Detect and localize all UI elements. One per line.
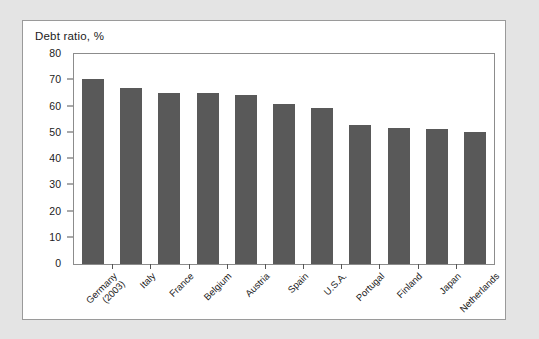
x-tick-label: Netherlands [458,271,502,315]
y-tick-label: 0 [55,257,61,269]
bar-slot [74,54,112,264]
bar-slot [379,54,417,264]
y-tick-label: 10 [49,231,61,243]
bar [426,129,448,264]
bar [464,132,486,264]
y-tick-label: 40 [49,152,61,164]
y-tick-label: 70 [49,73,61,85]
bar [273,104,295,264]
plot-wrapper: 01020304050607080 Germany(2003)ItalyFran… [23,21,507,321]
bar [158,93,180,264]
bar [235,95,257,264]
bar [388,128,410,265]
bar [82,79,104,264]
bar-slot [112,54,150,264]
x-tick-label: Italy [138,271,158,291]
bar-slot [418,54,456,264]
bar-slot [456,54,494,264]
bar [349,125,371,264]
y-tick-label: 20 [49,205,61,217]
y-tick-label: 50 [49,126,61,138]
y-axis: 01020304050607080 [23,53,73,263]
bar [120,88,142,264]
figure-card: Debt ratio, % 01020304050607080 Germany(… [22,20,506,320]
x-tick-label: Portugal [354,271,387,304]
x-tick-label: Japan [437,271,463,297]
x-tick-label: U.S.A. [322,271,349,298]
x-tick-label: France [168,271,197,300]
bar-slot [150,54,188,264]
figure-page: Debt ratio, % 01020304050607080 Germany(… [0,0,539,339]
bar [311,108,333,264]
y-tick-label: 30 [49,178,61,190]
x-tick-label: Austria [244,271,273,300]
bar-slot [303,54,341,264]
bar-slot [265,54,303,264]
x-axis-labels: Germany(2003)ItalyFranceBelgiumAustriaSp… [74,267,494,327]
bar-slot [189,54,227,264]
bar-slot [227,54,265,264]
y-tick-label: 60 [49,100,61,112]
x-tick-label: Germany(2003) [85,271,128,314]
bar-slot [341,54,379,264]
bar [197,93,219,264]
x-tick-label: Belgium [202,271,234,303]
x-tick-label: Spain [286,271,311,296]
bar-series [74,54,494,264]
x-tick-label: Finland [396,271,426,301]
y-tick-label: 80 [49,47,61,59]
